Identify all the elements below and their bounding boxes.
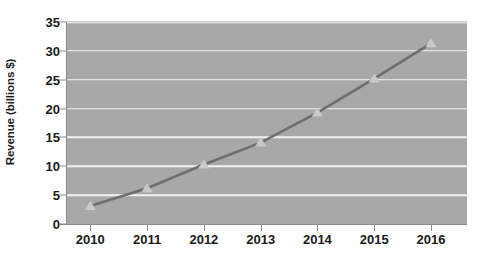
y-tick-label: 0 bbox=[26, 218, 60, 231]
x-tick-mark bbox=[431, 224, 432, 231]
y-tick-mark bbox=[59, 195, 66, 196]
y-axis-line bbox=[66, 22, 67, 225]
revenue-series bbox=[66, 22, 467, 224]
x-tick-mark bbox=[147, 224, 148, 231]
y-tick-mark bbox=[59, 108, 66, 109]
y-axis-title: Revenue (billions $) bbox=[0, 0, 20, 224]
y-axis-title-text: Revenue (billions $) bbox=[4, 59, 16, 166]
x-tick-label: 2012 bbox=[189, 233, 218, 247]
y-tick-label: 35 bbox=[26, 16, 60, 29]
y-tick-label: 20 bbox=[26, 102, 60, 115]
x-tick-label: 2014 bbox=[303, 233, 332, 247]
series-line bbox=[90, 43, 431, 206]
x-tick-mark bbox=[90, 224, 91, 231]
data-point-marker bbox=[425, 38, 436, 47]
x-tick-label: 2010 bbox=[76, 233, 105, 247]
x-tick-mark bbox=[317, 224, 318, 231]
x-tick-mark bbox=[261, 224, 262, 231]
x-tick-label: 2015 bbox=[360, 233, 389, 247]
x-tick-mark bbox=[204, 224, 205, 231]
y-tick-label: 30 bbox=[26, 44, 60, 57]
y-tick-mark bbox=[59, 137, 66, 138]
y-axis-tick-labels: 0 5 10 15 20 25 30 35 bbox=[20, 0, 60, 257]
line-chart: Revenue (billions $) 0 5 10 15 20 25 30 … bbox=[0, 0, 494, 257]
y-tick-mark bbox=[59, 50, 66, 51]
x-tick-label: 2011 bbox=[133, 233, 161, 247]
y-tick-mark bbox=[59, 22, 66, 23]
y-tick-label: 10 bbox=[26, 160, 60, 173]
y-tick-mark bbox=[59, 79, 66, 80]
plot-area bbox=[66, 22, 467, 224]
x-axis-line bbox=[59, 224, 467, 225]
x-tick-label: 2016 bbox=[417, 233, 446, 247]
x-tick-label: 2013 bbox=[246, 233, 275, 247]
y-tick-label: 15 bbox=[26, 131, 60, 144]
data-point-marker bbox=[312, 107, 323, 116]
series-markers bbox=[85, 38, 437, 210]
x-tick-mark bbox=[374, 224, 375, 231]
y-tick-label: 5 bbox=[26, 189, 60, 202]
y-tick-mark bbox=[59, 166, 66, 167]
y-tick-label: 25 bbox=[26, 73, 60, 86]
